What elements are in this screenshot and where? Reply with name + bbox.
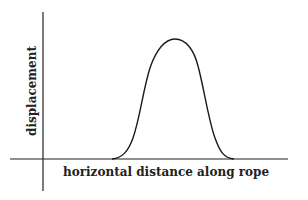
y-axis-label: displacement <box>25 46 39 136</box>
x-axis-label: horizontal distance along rope <box>63 165 269 179</box>
rope-pulse-diagram: displacement horizontal distance along r… <box>0 0 308 200</box>
pulse-curve <box>112 39 234 159</box>
